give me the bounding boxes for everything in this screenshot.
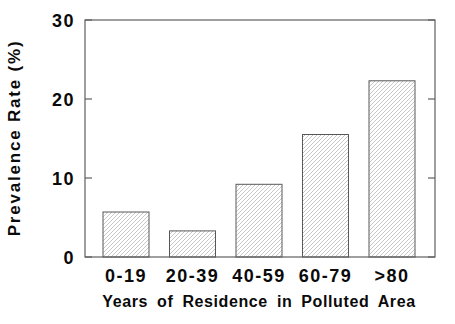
y-tick-labels-group: 0102030	[52, 11, 75, 268]
x-tick-label-0-19: 0-19	[105, 266, 147, 286]
bar->80	[369, 81, 415, 257]
x-tick-label->80: >80	[374, 266, 409, 286]
x-tick-label-20-39: 20-39	[166, 266, 220, 286]
bar-60-79	[303, 135, 349, 258]
y-tick-label-10: 10	[52, 169, 75, 189]
y-tick-label-20: 20	[52, 90, 75, 110]
figure: 0102030 0-1920-3940-5960-79>80 Prevalenc…	[0, 0, 455, 324]
bar-0-19	[103, 212, 149, 257]
x-axis-title: Years of Residence in Polluted Area	[102, 293, 415, 310]
x-tick-label-40-59: 40-59	[232, 266, 286, 286]
bars-group	[103, 81, 415, 257]
bar-chart: 0102030 0-1920-3940-5960-79>80 Prevalenc…	[0, 0, 455, 324]
y-tick-label-30: 30	[52, 11, 75, 31]
x-tick-labels-group: 0-1920-3940-5960-79>80	[105, 266, 410, 286]
x-tick-label-60-79: 60-79	[299, 266, 353, 286]
y-tick-label-0: 0	[63, 248, 75, 268]
bar-20-39	[170, 231, 216, 257]
y-axis-title: Prevalence Rate (%)	[5, 40, 24, 237]
bar-40-59	[236, 184, 282, 257]
